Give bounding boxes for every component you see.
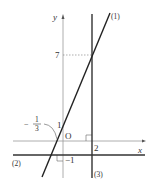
line-1 bbox=[42, 13, 110, 177]
intercept-pointer bbox=[44, 124, 57, 139]
y-axis-label: y bbox=[52, 12, 57, 22]
fraction-denominator: 3 bbox=[35, 124, 39, 133]
fraction-numerator: 1 bbox=[35, 115, 39, 124]
tick-label-y7: 7 bbox=[55, 50, 60, 60]
origin-label: O bbox=[65, 131, 72, 141]
right-angle-mark-x2 bbox=[86, 135, 92, 141]
graph-canvas: y x O (1) (2) (3) 7 1 −1 2 − 1 3 bbox=[0, 0, 155, 191]
right-angle-mark-y-1 bbox=[57, 155, 63, 161]
x-axis-label: x bbox=[137, 145, 142, 155]
line-1-label: (1) bbox=[111, 12, 120, 21]
fraction-sign: − bbox=[24, 120, 29, 129]
y-axis-arrow-icon bbox=[62, 14, 65, 19]
line-2-label: (2) bbox=[12, 159, 21, 168]
x-axis-arrow-icon bbox=[142, 140, 146, 143]
tick-label-y1: 1 bbox=[57, 120, 62, 130]
tick-label-y-minus1: −1 bbox=[65, 155, 75, 165]
tick-label-x2: 2 bbox=[94, 143, 99, 153]
line-3-label: (3) bbox=[94, 170, 103, 179]
